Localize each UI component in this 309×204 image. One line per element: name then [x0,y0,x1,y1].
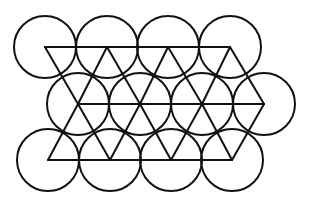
diagonal-edge [140,47,168,104]
diagonal-edge [78,104,110,160]
diagonal-edge [202,104,232,160]
diagonal-edge [107,47,140,104]
diagonal-edge [110,104,140,160]
diagonal-edge [140,104,171,160]
diagonal-edge [45,47,78,104]
diagonal-edge [171,104,202,160]
circle-packing-diagram [0,0,309,204]
diagonal-edge [232,104,264,160]
diagonal-edge [78,47,107,104]
diagonal-edge [48,104,78,160]
triangle-lattice [45,47,264,160]
diagonal-edge [202,47,230,104]
